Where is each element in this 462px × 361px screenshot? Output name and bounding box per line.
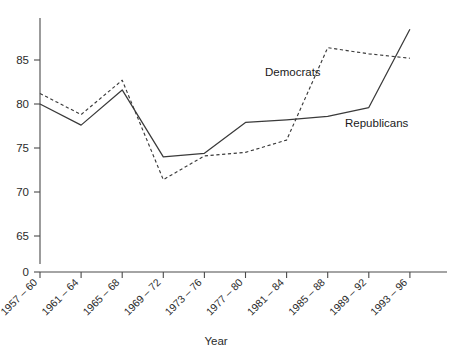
line-chart: 85 80 75 70 65 0 1957 – 601961 – 641965 …: [0, 0, 462, 361]
y-tick-label-80: 80: [16, 98, 29, 110]
chart-background: [0, 0, 462, 361]
y-tick-label-85: 85: [16, 54, 29, 66]
series-label-republicans: Republicans: [345, 117, 409, 129]
y-tick-label-65: 65: [16, 230, 29, 242]
y-tick-label-70: 70: [16, 186, 29, 198]
chart-svg: 85 80 75 70 65 0 1957 – 601961 – 641965 …: [0, 0, 462, 361]
x-axis-title: Year: [204, 335, 227, 347]
series-label-democrats: Democrats: [265, 66, 321, 78]
y-tick-label-75: 75: [16, 142, 29, 154]
y-tick-label-0: 0: [23, 266, 29, 278]
